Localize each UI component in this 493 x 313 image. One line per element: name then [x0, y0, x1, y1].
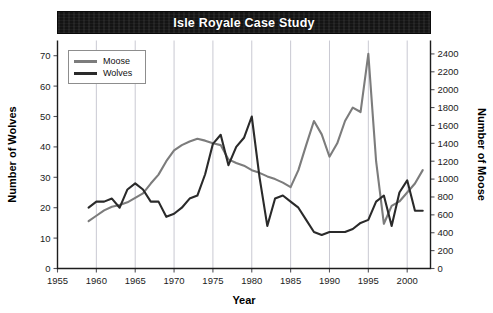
svg-text:1400: 1400 — [438, 138, 459, 149]
svg-text:60: 60 — [40, 81, 51, 92]
y-axis-right-ticks: 0200400600800100012001400160018002000220… — [431, 48, 459, 274]
svg-text:1980: 1980 — [241, 275, 262, 286]
svg-text:200: 200 — [438, 245, 454, 256]
svg-text:10: 10 — [40, 233, 51, 244]
svg-text:1600: 1600 — [438, 120, 459, 131]
svg-text:1200: 1200 — [438, 156, 459, 167]
svg-text:2000: 2000 — [397, 275, 418, 286]
svg-text:30: 30 — [40, 172, 51, 183]
svg-text:1995: 1995 — [358, 275, 379, 286]
svg-text:1960: 1960 — [86, 275, 107, 286]
svg-text:400: 400 — [438, 227, 454, 238]
svg-text:2000: 2000 — [438, 84, 459, 95]
svg-text:600: 600 — [438, 209, 454, 220]
series-line-wolves — [89, 117, 423, 236]
chart-plot-area: 010203040506070 020040060080010001200140… — [0, 0, 493, 313]
chart-figure: Isle Royale Case Study 010203040506070 0… — [0, 0, 493, 313]
svg-text:1000: 1000 — [438, 173, 459, 184]
x-axis-title: Year — [232, 294, 256, 306]
svg-text:1970: 1970 — [163, 275, 184, 286]
svg-text:1990: 1990 — [319, 275, 340, 286]
svg-text:1800: 1800 — [438, 102, 459, 113]
svg-text:0: 0 — [45, 263, 50, 274]
svg-text:2200: 2200 — [438, 66, 459, 77]
svg-text:800: 800 — [438, 191, 454, 202]
chart-legend: Moose Wolves — [68, 50, 146, 84]
legend-label-moose: Moose — [103, 55, 130, 67]
legend-label-wolves: Wolves — [103, 67, 132, 79]
svg-text:2400: 2400 — [438, 48, 459, 59]
svg-text:0: 0 — [438, 263, 443, 274]
legend-item-moose: Moose — [74, 55, 140, 67]
svg-text:1985: 1985 — [280, 275, 301, 286]
y-axis-left-title: Number of Wolves — [6, 106, 18, 202]
svg-text:40: 40 — [40, 141, 51, 152]
legend-item-wolves: Wolves — [74, 67, 140, 79]
y-axis-left-ticks: 010203040506070 — [40, 50, 58, 274]
legend-swatch-moose — [74, 60, 97, 63]
legend-swatch-wolves — [74, 72, 97, 75]
svg-text:1955: 1955 — [47, 275, 68, 286]
x-axis-ticks: 1955196019651970197519801985199019952000 — [47, 269, 418, 286]
svg-text:20: 20 — [40, 202, 51, 213]
svg-text:50: 50 — [40, 111, 51, 122]
svg-text:70: 70 — [40, 50, 51, 61]
svg-text:1975: 1975 — [202, 275, 223, 286]
y-axis-right-title: Number of Moose — [476, 108, 488, 201]
svg-text:1965: 1965 — [125, 275, 146, 286]
